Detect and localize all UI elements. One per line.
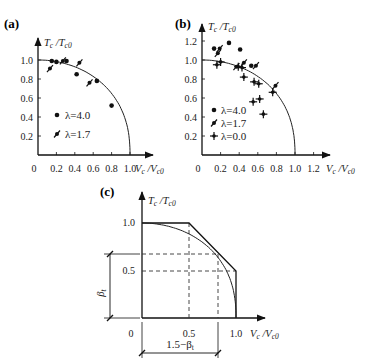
panel-b-legend: λ=4.0 λ=1.7 λ=0.0 bbox=[210, 104, 247, 142]
data-point-feather bbox=[47, 65, 53, 72]
x-tick-label: 0 bbox=[32, 163, 37, 174]
x-tick-label: 0.4 bbox=[69, 163, 82, 174]
data-point-cross bbox=[255, 80, 263, 88]
data-point-dot bbox=[54, 60, 59, 65]
x-tick-label: 0.8 bbox=[105, 163, 118, 174]
data-point-feather bbox=[76, 59, 82, 66]
y-tick-label: 0.6 bbox=[185, 93, 198, 104]
panel-c-y-tick-05: 0.5 bbox=[123, 265, 136, 276]
data-point-feather bbox=[87, 79, 93, 86]
x-tick-label: 1.0 bbox=[289, 163, 302, 174]
panel-b-label: (b) bbox=[175, 16, 191, 31]
x-tick-label: 1.2 bbox=[307, 163, 320, 174]
panel-c: (c) Tc /Tc0 Vc /Vc0 0 0.5 1.0 0.5 1.0 βt bbox=[95, 184, 279, 358]
x-tick-label: 0.4 bbox=[233, 163, 246, 174]
y-tick-label: 1.0 bbox=[21, 55, 34, 66]
y-tick-label: 0.4 bbox=[21, 112, 34, 123]
panel-a-data-points bbox=[47, 57, 114, 107]
data-point-feather bbox=[253, 62, 259, 69]
x-tick-label: 0 bbox=[196, 163, 201, 174]
panel-c-y-label: Tc /Tc0 bbox=[148, 195, 176, 208]
panel-a-x-label: Vc /Vc0 bbox=[135, 163, 164, 176]
legend-feather-marker bbox=[211, 120, 217, 127]
panel-a-interaction-curve bbox=[38, 60, 130, 155]
x-tick-label: 1.0 bbox=[124, 163, 137, 174]
figure-canvas: (a) Tc /Tc0 Vc /Vc0 00.20.40.60.81.0 0.2… bbox=[0, 0, 366, 364]
y-tick-label: 0.4 bbox=[185, 112, 198, 123]
x-tick-label: 0.8 bbox=[270, 163, 283, 174]
panel-b-y-label: Tc /Tc0 bbox=[208, 21, 236, 34]
panel-a-y-label: Tc /Tc0 bbox=[44, 37, 72, 50]
data-point-dot bbox=[95, 79, 100, 84]
data-point-dot bbox=[249, 63, 254, 68]
legend-b-item-1: λ=4.0 bbox=[221, 104, 247, 116]
x-tick-label: 0.6 bbox=[87, 163, 100, 174]
beta-label: βt bbox=[95, 288, 108, 297]
data-point-dot bbox=[227, 41, 232, 46]
data-point-feather bbox=[272, 82, 278, 89]
legend-dot-marker bbox=[212, 108, 217, 113]
y-tick-label: 0.6 bbox=[21, 93, 34, 104]
data-point-dot bbox=[109, 103, 114, 108]
panel-c-dashed-guides bbox=[142, 223, 236, 318]
data-point-dot bbox=[74, 72, 79, 77]
legend-dot-marker bbox=[55, 113, 60, 118]
one-point-five-minus-beta-dimension: 1.5−βt bbox=[139, 322, 221, 358]
legend-cross-marker bbox=[210, 132, 218, 140]
legend-feather-marker bbox=[54, 131, 60, 138]
panel-b-x-label: Vc /Vc0 bbox=[326, 163, 355, 176]
data-point-cross bbox=[259, 110, 267, 118]
y-tick-label: 0.2 bbox=[185, 131, 198, 142]
data-point-dot bbox=[212, 46, 217, 51]
panel-a-legend: λ=4.0 λ=1.7 bbox=[54, 109, 91, 140]
x-tick-label: 0.2 bbox=[214, 163, 227, 174]
data-point-cross bbox=[238, 64, 246, 72]
y-tick-label: 1.0 bbox=[185, 55, 198, 66]
legend-b-item-3: λ=0.0 bbox=[221, 130, 247, 142]
panel-c-y-tick-10: 1.0 bbox=[123, 217, 136, 228]
one-point-five-minus-beta-label: 1.5−βt bbox=[166, 338, 195, 352]
data-point-dot bbox=[238, 47, 243, 52]
panel-a: (a) Tc /Tc0 Vc /Vc0 00.20.40.60.81.0 0.2… bbox=[4, 16, 164, 176]
data-point-dot bbox=[50, 59, 55, 64]
x-tick-label: 0.2 bbox=[50, 163, 63, 174]
panel-c-x-tick-0: 0 bbox=[129, 328, 134, 339]
panel-c-x-label: Vc /Vc0 bbox=[250, 328, 279, 341]
panel-c-label: (c) bbox=[100, 184, 114, 199]
y-tick-label: 0.8 bbox=[185, 74, 198, 85]
y-tick-label: 1.2 bbox=[185, 36, 198, 47]
panel-b: (b) Tc /Tc0 Vc /Vc0 00.20.40.60.81.01.2 … bbox=[175, 16, 355, 176]
legend-a-item-1: λ=4.0 bbox=[65, 109, 91, 121]
panel-b-interaction-curve bbox=[202, 60, 295, 155]
data-point-cross bbox=[240, 73, 248, 81]
y-tick-label: 0.8 bbox=[21, 74, 34, 85]
legend-b-item-2: λ=1.7 bbox=[221, 117, 247, 129]
panel-a-label: (a) bbox=[4, 16, 19, 31]
panel-c-x-tick-10: 1.0 bbox=[230, 328, 243, 339]
x-tick-label: 0.6 bbox=[252, 163, 265, 174]
y-tick-label: 0.2 bbox=[21, 131, 34, 142]
data-point-cross bbox=[250, 78, 258, 86]
data-point-cross bbox=[269, 88, 277, 96]
legend-a-item-2: λ=1.7 bbox=[65, 128, 91, 140]
beta-dimension: βt bbox=[95, 251, 140, 321]
